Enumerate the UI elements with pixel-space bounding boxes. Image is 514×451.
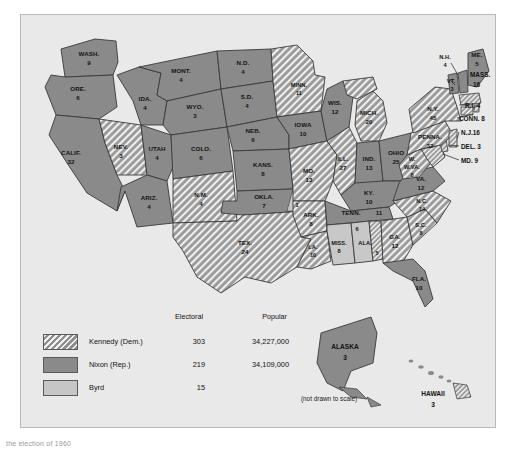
- votes-sc: 8: [419, 230, 422, 236]
- legend-label-byrd: Byrd: [89, 383, 161, 392]
- votes-mont: 4: [179, 76, 183, 83]
- votes-okla: 7: [262, 202, 266, 209]
- state-colorado: [171, 127, 233, 179]
- votes-wva: 8: [410, 172, 413, 178]
- votes-ida: 4: [143, 104, 147, 111]
- state-new-hampshire: [458, 70, 468, 93]
- legend-label-kennedy: Kennedy (Dem.): [89, 337, 161, 346]
- state-new-jersey: [449, 129, 457, 147]
- legend-row-kennedy: Kennedy (Dem.) 303 34,227,000: [43, 330, 293, 353]
- label-penna: PENNA.: [418, 133, 442, 140]
- votes-colo: 6: [199, 154, 203, 161]
- legend-header-popular: Popular: [219, 312, 287, 321]
- label-neb: NEB.: [245, 127, 260, 134]
- label-miss: MISS.: [331, 240, 347, 246]
- votes-calif: 32: [68, 158, 75, 165]
- votes-me: 5: [475, 60, 479, 67]
- votes-nd: 4: [241, 68, 245, 75]
- label-minn: MINN.: [291, 82, 308, 88]
- votes-ala-ken: 5: [375, 250, 378, 256]
- legend-header: Electoral Popular: [43, 312, 293, 321]
- label-mont: MONT.: [171, 67, 191, 74]
- label-okla: OKLA.: [254, 193, 274, 200]
- label-ore: ORE.: [70, 85, 86, 92]
- votes-okla-byrd: 1: [295, 202, 298, 208]
- legend: Kennedy (Dem.) 303 34,227,000 Nixon (Rep…: [43, 330, 293, 399]
- votes-tenn: 11: [376, 209, 383, 216]
- votes-la: 10: [310, 252, 316, 258]
- label-ny: N.Y.: [427, 105, 439, 112]
- label-ala: ALA.: [358, 240, 372, 246]
- label-conn: CONN. 8: [459, 115, 485, 122]
- legend-swatch-kennedy: [43, 334, 78, 350]
- votes-tex: 24: [242, 248, 249, 255]
- label-nj: N.J.16: [461, 129, 480, 136]
- label-nd: N.D.: [237, 59, 250, 66]
- legend-electoral-kennedy: 303: [161, 337, 205, 346]
- label-ariz: ARIZ.: [141, 194, 158, 201]
- votes-nc: 14: [419, 206, 426, 212]
- votes-ill: 27: [340, 164, 347, 171]
- label-hawaii: HAWAII: [421, 390, 445, 397]
- votes-sd: 4: [245, 102, 249, 109]
- label-ga: GA.: [389, 233, 400, 240]
- label-md: MD. 9: [461, 157, 478, 164]
- label-mo: MO.: [303, 167, 315, 174]
- votes-ariz: 4: [147, 203, 151, 210]
- votes-vt: 3: [450, 86, 453, 92]
- label-wva: W.VA.: [404, 164, 420, 170]
- label-utah: UTAH: [148, 145, 166, 152]
- votes-ga: 12: [392, 242, 399, 249]
- label-mass: MASS.: [470, 71, 490, 78]
- votes-mo: 13: [306, 176, 313, 183]
- votes-ky: 10: [366, 198, 373, 205]
- label-nh: N.H.: [439, 54, 451, 60]
- label-nev: NEV.: [114, 143, 128, 150]
- label-del: DEL. 3: [461, 143, 481, 150]
- votes-miss: 8: [337, 248, 340, 254]
- votes-hawaii: 3: [431, 401, 435, 408]
- votes-ark: 8: [309, 220, 313, 227]
- label-calif: CALIF.: [61, 149, 81, 156]
- label-sd: S.D.: [241, 93, 254, 100]
- votes-neb: 6: [251, 136, 255, 143]
- votes-ind: 13: [366, 164, 373, 171]
- votes-ohio: 25: [393, 158, 400, 165]
- legend-popular-nixon: 34,109,000: [221, 360, 289, 369]
- votes-kans: 8: [261, 170, 265, 177]
- votes-iowa: 10: [300, 130, 307, 137]
- label-nm: N.M.: [194, 191, 208, 198]
- legend-row-byrd: Byrd 15: [43, 376, 293, 399]
- label-fla: FLA.: [412, 275, 426, 282]
- label-nc: N.C.: [416, 198, 428, 204]
- votes-nev: 3: [119, 152, 123, 159]
- label-wyo: WYO.: [187, 103, 204, 110]
- votes-ore: 6: [76, 94, 80, 101]
- legend-swatch-nixon: [43, 357, 78, 373]
- state-oregon: [45, 75, 117, 119]
- label-ri: R.I. 4: [465, 102, 481, 109]
- legend-popular-kennedy: 34,227,000: [221, 337, 289, 346]
- votes-ny: 45: [430, 114, 437, 121]
- election-map-page: WASH. 9 ORE. 6 CALIF. 32 NEV. 3 IDA. 4 M…: [0, 0, 514, 451]
- label-sc: S.C.: [415, 222, 427, 228]
- label-ida: IDA.: [139, 95, 152, 102]
- votes-ala-byrd: 6: [355, 226, 358, 232]
- votes-penna: 32: [427, 142, 434, 149]
- legend-electoral-byrd: 15: [161, 383, 205, 392]
- votes-minn: 11: [296, 90, 302, 96]
- legend-electoral-nixon: 219: [161, 360, 205, 369]
- label-tenn: TENN.: [341, 209, 360, 216]
- label-wis: WIS.: [328, 99, 342, 106]
- votes-wash: 9: [87, 59, 91, 66]
- votes-nm: 4: [199, 200, 203, 207]
- label-wva-w: W.: [409, 156, 416, 162]
- label-ind: IND.: [363, 155, 376, 162]
- label-wash: WASH.: [79, 50, 100, 57]
- legend-label-nixon: Nixon (Rep.): [89, 360, 161, 369]
- votes-fla: 10: [416, 284, 423, 291]
- label-me: ME.: [471, 51, 482, 58]
- label-va: VA.: [416, 175, 426, 182]
- label-alaska: ALASKA: [331, 343, 359, 350]
- votes-wyo: 3: [193, 112, 197, 119]
